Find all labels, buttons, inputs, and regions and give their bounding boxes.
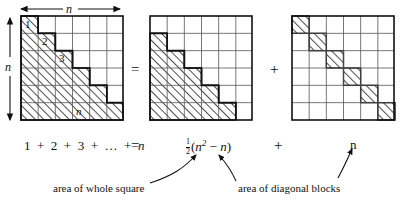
- caption-whole-square: area of whole square: [53, 182, 144, 194]
- plus-a: +: [34, 138, 48, 153]
- leader-arrow-n-squared: [150, 155, 196, 183]
- n-squared-exponent: 2: [202, 138, 207, 148]
- grid-staircase-square: [21, 16, 123, 120]
- paren-close: ): [227, 139, 231, 154]
- triangle-shaded-region: [150, 33, 236, 120]
- term-2: 2: [51, 138, 58, 153]
- staircase-label-n: n: [76, 106, 82, 117]
- grid-lower-triangle-square: [150, 16, 252, 120]
- grid-diagonal-square: [292, 16, 395, 120]
- figure-canvas: n n 1 2 3 n = + 1 + 2 + 3 + … + n = 1 2 …: [0, 0, 410, 205]
- term-1: 1: [24, 138, 31, 153]
- equation-right-second-term: n: [350, 137, 357, 153]
- fraction-denominator: 2: [186, 147, 190, 156]
- fraction-numerator: 1: [186, 138, 190, 146]
- staircase-label-2: 2: [42, 36, 48, 47]
- term-3: 3: [78, 138, 85, 153]
- operator-equals-bottom: =: [131, 137, 139, 154]
- minus-sign: −: [210, 139, 217, 154]
- equation-right-first-term: 1 2 (n2 − n): [186, 138, 231, 157]
- leader-arrow-diagonal-n: [338, 149, 352, 178]
- operator-equals-top: =: [131, 61, 139, 78]
- left-dimension-label: n: [5, 60, 11, 75]
- operator-plus-bottom: +: [274, 137, 282, 154]
- ellipsis: …: [105, 138, 118, 153]
- staircase-label-1: 1: [25, 19, 31, 30]
- equation-left-side: 1 + 2 + 3 + … + n: [24, 138, 144, 154]
- caption-diagonal-blocks: area of diagonal blocks: [238, 182, 340, 194]
- top-dimension-label: n: [66, 2, 72, 17]
- leader-arrow-minus-n: [219, 155, 236, 181]
- plus-b: +: [61, 138, 75, 153]
- diagram-svg: [0, 0, 410, 205]
- one-half-fraction: 1 2: [186, 138, 190, 156]
- operator-plus-top: +: [270, 61, 278, 78]
- plus-c: +: [87, 138, 101, 153]
- staircase-label-3: 3: [59, 53, 65, 64]
